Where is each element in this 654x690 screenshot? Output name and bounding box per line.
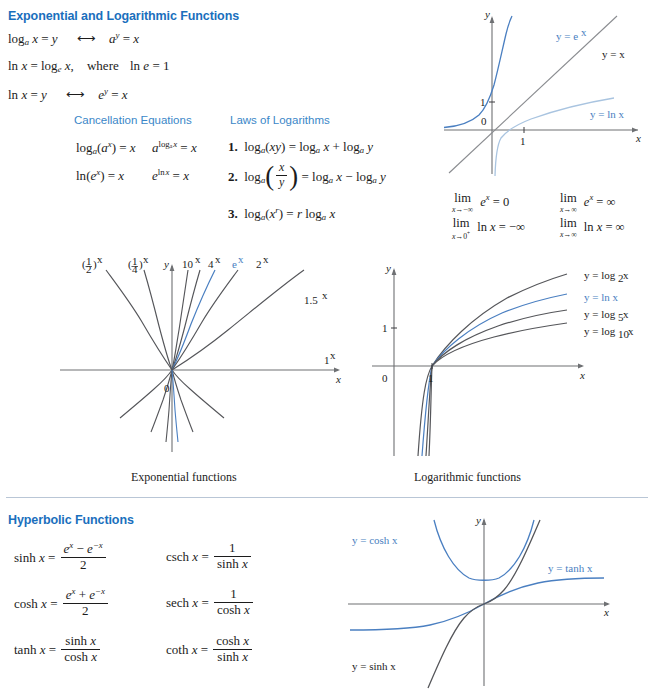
- svg-text:0: 0: [481, 115, 487, 127]
- svg-text:4: 4: [208, 258, 214, 270]
- hyperbolic-definition-csch: csch x = 1sinh x: [166, 543, 253, 573]
- limit-exp-pos-infinity: limx→∞ ex = ∞: [560, 192, 615, 213]
- figure-exponential-log-inverse: y x 1 0 1 y = e x y = x y = ln x: [432, 6, 650, 178]
- svg-text:1: 1: [520, 135, 526, 147]
- svg-text:1: 1: [480, 96, 486, 108]
- svg-text:y: y: [385, 262, 391, 274]
- svg-text:y = ln x: y = ln x: [584, 291, 619, 303]
- svg-text:y: y: [163, 258, 169, 270]
- svg-text:x: x: [628, 325, 634, 337]
- svg-text:x: x: [635, 132, 641, 144]
- identity-log-definition: loga x = y ⟷ ay = x: [8, 30, 139, 47]
- svg-text:x: x: [238, 253, 244, 265]
- section-heading-hyperbolic: Hyperbolic Functions: [8, 513, 134, 527]
- hyperbolic-definition-coth: coth x = cosh xsinh x: [166, 636, 254, 666]
- cancellation-equation-2-left: ln(ex) = x: [76, 167, 124, 184]
- section-heading-exponential-logarithmic: Exponential and Logarithmic Functions: [8, 9, 239, 23]
- svg-text:e: e: [232, 258, 237, 270]
- svg-text:y = ln x: y = ln x: [590, 108, 625, 120]
- caption-logarithmic-functions: Logarithmic functions: [414, 470, 521, 485]
- svg-text:y = tanh x: y = tanh x: [548, 562, 593, 574]
- svg-text:x: x: [581, 26, 587, 38]
- svg-text:x: x: [263, 253, 269, 265]
- svg-text:x: x: [97, 253, 103, 265]
- svg-text:x: x: [579, 369, 585, 381]
- svg-text:y = e: y = e: [556, 30, 578, 42]
- svg-text:y: y: [484, 8, 490, 20]
- svg-text:2: 2: [256, 258, 262, 270]
- svg-text:1.5: 1.5: [304, 294, 318, 306]
- svg-text:1: 1: [428, 372, 434, 384]
- svg-text:1: 1: [324, 354, 330, 366]
- figure-exponential-functions: y x 0 ( 1 2 ) x ( 1 4 ) x 10 x 4 x e x 2…: [60, 252, 350, 467]
- svg-text:y = log: y = log: [584, 269, 616, 281]
- hyperbolic-definition-sinh: sinh x = ex − e−x2: [14, 543, 108, 574]
- law-of-logarithms-3: 3. loga(xr) = r loga x: [228, 205, 335, 222]
- cancellation-equation-1-left: loga(ax) = x: [76, 139, 136, 156]
- limit-exp-neg-infinity: limx→−∞ ex = 0: [452, 192, 509, 213]
- cancellation-equation-1-right: aloga x = x: [152, 139, 197, 156]
- hyperbolic-definition-sech: sech x = 1cosh x: [166, 589, 255, 619]
- subheading-laws-of-logarithms: Laws of Logarithms: [230, 114, 330, 126]
- svg-text:x: x: [215, 253, 221, 265]
- limit-ln-pos-infinity: limx→∞ ln x = ∞: [560, 217, 625, 238]
- svg-text:0: 0: [382, 372, 388, 384]
- identity-natural-log-equivalence: ln x = y ⟷ ey = x: [8, 86, 128, 103]
- law-of-logarithms-2: 2. loga(xy) = loga x − loga y: [228, 163, 386, 194]
- svg-text:y = log: y = log: [584, 308, 616, 320]
- svg-text:2: 2: [86, 263, 92, 275]
- section-divider: [6, 497, 648, 498]
- svg-text:y = log: y = log: [584, 325, 616, 337]
- svg-text:x: x: [335, 373, 341, 385]
- subheading-cancellation-equations: Cancellation Equations: [74, 114, 192, 126]
- svg-text:y = x: y = x: [602, 48, 625, 60]
- svg-text:x: x: [322, 289, 328, 301]
- hyperbolic-definition-tanh: tanh x = sinh xcosh x: [14, 636, 102, 666]
- svg-text:x: x: [623, 308, 629, 320]
- svg-text:x: x: [330, 349, 336, 361]
- svg-text:y = sinh x: y = sinh x: [352, 660, 396, 672]
- svg-text:y: y: [475, 514, 481, 526]
- svg-text:1: 1: [382, 322, 388, 334]
- svg-text:4: 4: [132, 263, 138, 275]
- svg-text:x: x: [603, 606, 609, 618]
- reference-sheet-page: Exponential and Logarithmic Functions lo…: [0, 0, 654, 690]
- svg-text:10: 10: [182, 258, 194, 270]
- svg-text:x: x: [623, 269, 629, 281]
- caption-exponential-functions: Exponential functions: [131, 470, 237, 485]
- identity-natural-log-definition: ln x = loge x, where ln e = 1: [8, 58, 169, 74]
- figure-hyperbolic-functions: y x y = cosh x y = tanh x y = sinh x: [336, 508, 654, 690]
- svg-text:y = cosh x: y = cosh x: [352, 534, 398, 546]
- figure-logarithmic-functions: y x 1 0 1 y = log 2 x y = ln x y = log 5…: [362, 256, 654, 466]
- svg-text:x: x: [143, 253, 149, 265]
- hyperbolic-definition-cosh: cosh x = ex + e−x2: [14, 589, 110, 620]
- cancellation-equation-2-right: eln x = x: [152, 167, 189, 184]
- limit-ln-zero-plus: limx→0+ ln x = −∞: [452, 217, 525, 240]
- law-of-logarithms-1: 1. loga(xy) = loga x + loga y: [228, 139, 373, 155]
- svg-text:x: x: [195, 253, 201, 265]
- svg-text:0: 0: [164, 382, 170, 394]
